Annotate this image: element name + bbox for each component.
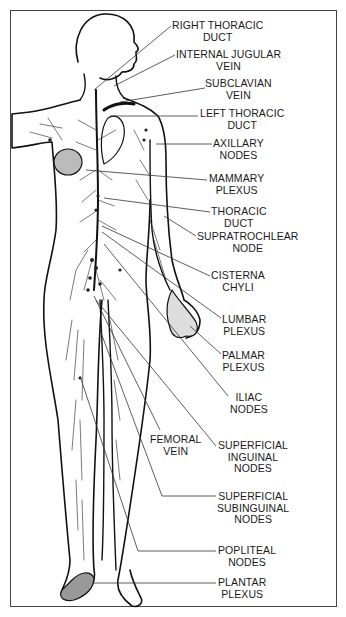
label-line: DUCT	[211, 218, 267, 230]
label-cisterna-chyli: CISTERNA CHYLI	[211, 270, 265, 293]
label-internal-jugular-vein: INTERNAL JUGULAR VEIN	[176, 49, 281, 72]
label-line: VEIN	[176, 61, 281, 73]
label-line: INTERNAL JUGULAR	[176, 49, 281, 61]
label-line: VEIN	[150, 446, 201, 458]
label-thoracic-duct: THORACIC DUCT	[211, 206, 267, 229]
label-line: LUMBAR	[222, 314, 266, 326]
lymphatic-system-illustration	[0, 0, 346, 617]
label-line: FEMORAL	[150, 434, 201, 446]
label-supratrochlear-node: SUPRATROCHLEAR NODE	[197, 231, 299, 254]
foot	[61, 573, 94, 601]
label-superficial-inguinal-nodes: SUPERFICIAL INGUINAL NODES	[218, 440, 288, 475]
label-line: NODES	[217, 514, 289, 526]
label-line: CISTERNA	[211, 270, 265, 282]
label-line: MAMMARY	[209, 173, 264, 185]
label-line: PLEXUS	[222, 326, 266, 338]
label-line: RIGHT THORACIC	[172, 20, 263, 32]
label-line: AXILLARY	[213, 138, 264, 150]
label-line: THORACIC	[211, 206, 267, 218]
label-iliac-nodes: ILIAC NODES	[230, 392, 268, 415]
label-line: SUBCLAVIAN	[205, 78, 272, 90]
label-line: POPLITEAL	[218, 545, 276, 557]
label-mammary-plexus: MAMMARY PLEXUS	[209, 173, 264, 196]
label-popliteal-nodes: POPLITEAL NODES	[218, 545, 276, 568]
label-plantar-plexus: PLANTAR PLEXUS	[218, 577, 266, 600]
label-line: PALMAR	[222, 350, 265, 362]
label-line: PLANTAR	[218, 577, 266, 589]
heart	[101, 116, 124, 164]
mammary-plexus-shape	[54, 149, 82, 175]
label-line: NODES	[218, 557, 276, 569]
label-line: PLEXUS	[218, 589, 266, 601]
label-line: SUPERFICIAL	[218, 440, 288, 452]
label-line: ILIAC	[230, 392, 268, 404]
label-line: DUCT	[200, 120, 284, 132]
label-femoral-vein: FEMORAL VEIN	[150, 434, 201, 457]
label-line: PLEXUS	[222, 362, 265, 374]
label-line: NODES	[218, 463, 288, 475]
label-line: NODES	[213, 150, 264, 162]
label-line: PLEXUS	[209, 185, 264, 197]
label-line: SUPERFICIAL	[217, 491, 289, 503]
label-axillary-nodes: AXILLARY NODES	[213, 138, 264, 161]
label-line: DUCT	[172, 32, 263, 44]
body-outline-right	[124, 98, 200, 338]
label-line: VEIN	[205, 90, 272, 102]
label-superficial-subinguinal-nodes: SUPERFICIAL SUBINGUINAL NODES	[217, 491, 289, 526]
label-right-thoracic-duct: RIGHT THORACIC DUCT	[172, 20, 263, 43]
head-outline	[76, 14, 138, 80]
label-left-thoracic-duct: LEFT THORACIC DUCT	[200, 108, 284, 131]
label-palmar-plexus: PALMAR PLEXUS	[222, 350, 265, 373]
label-lumbar-plexus: LUMBAR PLEXUS	[222, 314, 266, 337]
label-line: CHYLI	[211, 282, 265, 294]
label-line: NODE	[197, 243, 299, 255]
label-subclavian-vein: SUBCLAVIAN VEIN	[205, 78, 272, 101]
label-line: NODES	[230, 404, 268, 416]
label-line: LEFT THORACIC	[200, 108, 284, 120]
label-line: SUPRATROCHLEAR	[197, 231, 299, 243]
